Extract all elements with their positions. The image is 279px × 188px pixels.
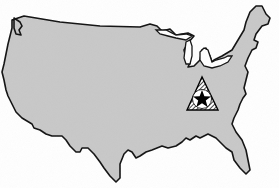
- us-map-svg: [0, 0, 279, 188]
- us-map: [0, 0, 279, 188]
- texture-overlay: [0, 0, 279, 188]
